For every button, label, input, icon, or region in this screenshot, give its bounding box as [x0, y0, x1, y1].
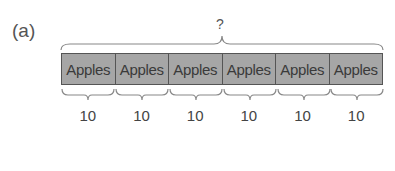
tape-bar: Apples Apples Apples Apples Apples Apple… [61, 53, 383, 85]
cell-3: Apples [169, 54, 223, 84]
cell-6: Apples [330, 54, 383, 84]
cell-2: Apples [116, 54, 170, 84]
value-1: 10 [61, 107, 115, 124]
bottom-braces [62, 89, 383, 100]
value-5: 10 [276, 107, 330, 124]
cell-values: 10 10 10 10 10 10 [61, 107, 383, 124]
cell-1: Apples [62, 54, 116, 84]
cell-5: Apples [276, 54, 330, 84]
value-4: 10 [222, 107, 276, 124]
value-6: 10 [329, 107, 383, 124]
cell-4: Apples [223, 54, 277, 84]
braces [0, 0, 395, 171]
value-2: 10 [115, 107, 169, 124]
value-3: 10 [168, 107, 222, 124]
top-brace-icon [61, 36, 383, 50]
